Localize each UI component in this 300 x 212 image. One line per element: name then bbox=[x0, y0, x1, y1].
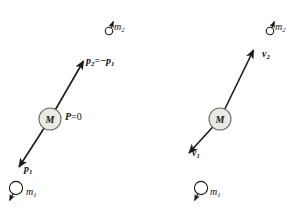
label-m1-left: m1 bbox=[26, 187, 37, 199]
left-particle-m2-glyph bbox=[105, 22, 113, 35]
label-velocity-v1: v1 bbox=[192, 148, 200, 160]
label-momentum-p2: p2=−p1 bbox=[86, 56, 115, 68]
left-m2-circle bbox=[105, 27, 112, 34]
right-m2-velocity-arrow bbox=[272, 22, 275, 29]
label-momentum-p1: p1 bbox=[24, 164, 32, 176]
right-m2-circle bbox=[266, 27, 273, 34]
right-m1-circle bbox=[194, 181, 207, 194]
right-mass-M-letter: M bbox=[215, 114, 226, 125]
right-m1-velocity-arrow bbox=[195, 193, 199, 200]
left-mass-M-letter: M bbox=[45, 114, 56, 125]
diagram-svg: M M bbox=[0, 0, 300, 212]
left-m1-circle bbox=[9, 181, 22, 194]
right-particle-m1-glyph bbox=[194, 181, 207, 200]
label-total-momentum: P=0 bbox=[65, 112, 82, 122]
left-particle-m1-glyph bbox=[9, 181, 22, 200]
label-m2-left: m2 bbox=[114, 22, 125, 34]
figure-canvas: M M bbox=[0, 0, 300, 212]
label-m2-right: m2 bbox=[275, 22, 286, 34]
label-m1-right: m1 bbox=[210, 187, 221, 199]
label-velocity-v2: v2 bbox=[262, 49, 270, 61]
left-m2-velocity-arrow bbox=[111, 22, 114, 29]
right-particle-m2-glyph bbox=[266, 22, 274, 35]
left-m1-velocity-arrow bbox=[10, 193, 14, 200]
